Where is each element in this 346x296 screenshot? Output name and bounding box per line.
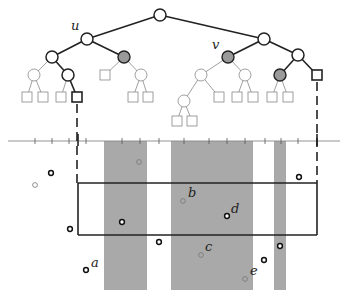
range-tree-diagram: u v a b c d e bbox=[0, 0, 346, 296]
label-a: a bbox=[91, 255, 99, 270]
leaf bbox=[22, 92, 32, 102]
leaf bbox=[267, 92, 277, 102]
leaf bbox=[232, 92, 242, 102]
selected-node bbox=[118, 51, 130, 63]
label-d: d bbox=[231, 201, 239, 216]
tree-node bbox=[239, 69, 251, 81]
slab-3 bbox=[274, 141, 286, 290]
shaded-slabs bbox=[104, 141, 286, 290]
point-d bbox=[225, 214, 230, 219]
diagram-svg: u v a b c d e bbox=[0, 0, 346, 296]
label-c: c bbox=[205, 239, 213, 254]
tree-node bbox=[62, 69, 74, 81]
leaf bbox=[172, 116, 182, 126]
point bbox=[262, 258, 267, 263]
node-u bbox=[81, 33, 93, 45]
point bbox=[297, 175, 302, 180]
leaf bbox=[56, 92, 66, 102]
label-e: e bbox=[250, 263, 258, 278]
point-a bbox=[84, 268, 89, 273]
tree-node bbox=[292, 49, 304, 61]
tree-node bbox=[135, 69, 147, 81]
leaf bbox=[143, 92, 153, 102]
label-u: u bbox=[71, 18, 79, 33]
point bbox=[49, 171, 54, 176]
tree-node bbox=[46, 51, 58, 63]
slab-2 bbox=[171, 141, 253, 290]
root-node bbox=[154, 9, 166, 21]
point bbox=[278, 244, 283, 249]
leaf bbox=[100, 70, 110, 80]
tree-node bbox=[178, 95, 190, 107]
point bbox=[157, 240, 162, 245]
tree-node bbox=[195, 69, 207, 81]
leaf bbox=[187, 116, 197, 126]
point-set bbox=[33, 160, 302, 282]
point bbox=[120, 220, 125, 225]
selected-node bbox=[274, 69, 286, 81]
leaf bbox=[128, 92, 138, 102]
label-v: v bbox=[212, 37, 220, 52]
leaf bbox=[38, 92, 48, 102]
tree-node bbox=[28, 69, 40, 81]
tree-node bbox=[258, 33, 270, 45]
tree-nodes bbox=[28, 9, 304, 107]
right-boundary-leaf bbox=[312, 70, 322, 80]
leaf bbox=[283, 92, 293, 102]
label-b: b bbox=[188, 185, 196, 200]
leaf bbox=[214, 92, 224, 102]
node-v bbox=[222, 51, 234, 63]
left-boundary-leaf bbox=[72, 92, 82, 102]
leaf bbox=[248, 92, 258, 102]
point bbox=[33, 183, 38, 188]
point bbox=[68, 227, 73, 232]
